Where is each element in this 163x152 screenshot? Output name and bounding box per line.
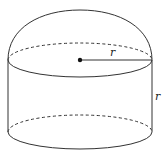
hemisphere-outline xyxy=(8,10,152,60)
height-label: r xyxy=(155,90,161,103)
bottom-ellipse-back-dashed xyxy=(8,115,152,132)
top-ellipse-front xyxy=(8,60,152,77)
center-point xyxy=(78,58,82,62)
radius-label: r xyxy=(110,46,116,59)
hemisphere-cylinder-diagram: r r xyxy=(0,0,163,152)
top-ellipse-back-dashed xyxy=(8,43,152,60)
bottom-ellipse-front xyxy=(8,132,152,149)
